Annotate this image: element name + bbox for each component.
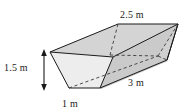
label-height: 1.5 m xyxy=(4,63,28,73)
label-bottom-width: 1 m xyxy=(62,99,78,109)
label-length: 3 m xyxy=(128,78,144,88)
label-top-width: 2.5 m xyxy=(120,10,144,20)
height-arrow-head-up xyxy=(41,49,47,56)
trapezoidal-prism-drawing xyxy=(0,0,189,112)
height-arrow-head-down xyxy=(41,84,47,91)
geometry-figure: 2.5 m 1.5 m 1 m 3 m xyxy=(0,0,189,112)
height-dimension-arrow xyxy=(41,49,47,91)
